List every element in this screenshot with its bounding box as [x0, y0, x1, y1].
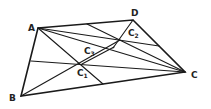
- quadrilateral-diagram: A B C D C1 C2 C3: [0, 0, 211, 109]
- label-c: C: [191, 70, 198, 80]
- label-c3: C3: [84, 46, 95, 57]
- median-c-ab: [31, 61, 185, 72]
- label-b: B: [9, 93, 16, 103]
- label-d: D: [131, 8, 138, 18]
- label-a: A: [28, 23, 35, 33]
- label-c2: C2: [128, 28, 139, 39]
- median-b-ac: [21, 40, 120, 96]
